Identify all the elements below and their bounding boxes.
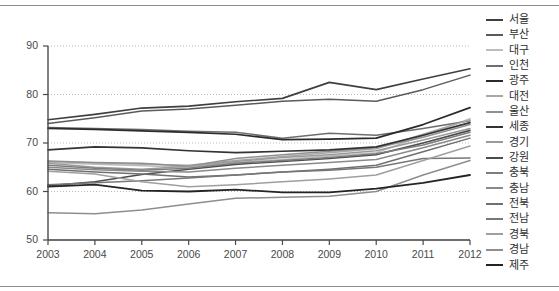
legend-label: 인천 [509, 58, 529, 73]
legend-item-10[interactable]: 충북 [486, 165, 558, 180]
legend-item-13[interactable]: 전남 [486, 211, 558, 226]
legend-swatch-line-icon [486, 187, 503, 189]
x-tick-label-2006: 2006 [166, 248, 212, 260]
legend-item-4[interactable]: 광주 [486, 73, 558, 88]
legend-label: 서울 [509, 12, 529, 27]
legend-item-6[interactable]: 울산 [486, 104, 558, 119]
x-tick-label-2009: 2009 [306, 248, 352, 260]
legend-label: 전북 [509, 196, 529, 211]
legend-item-7[interactable]: 세종 [486, 119, 558, 134]
x-tick-label-2004: 2004 [72, 248, 118, 260]
legend-swatch-line-icon [486, 80, 503, 82]
legend-swatch-line-icon [486, 141, 503, 143]
legend-label: 충남 [509, 181, 529, 196]
legend-item-12[interactable]: 전북 [486, 196, 558, 211]
legend-swatch-line-icon [486, 233, 503, 235]
legend-item-11[interactable]: 충남 [486, 181, 558, 196]
legend-item-5[interactable]: 대전 [486, 89, 558, 104]
legend-label: 경남 [509, 242, 529, 257]
y-tick-label-60: 60 [12, 185, 38, 197]
legend-item-0[interactable]: 서울 [486, 12, 558, 27]
y-tick-label-90: 90 [12, 39, 38, 51]
legend-item-8[interactable]: 경기 [486, 135, 558, 150]
legend-swatch-line-icon [486, 172, 503, 174]
top-divider [0, 5, 559, 6]
legend-swatch-line-icon [486, 218, 503, 220]
legend-label: 제주 [509, 258, 529, 273]
legend-swatch-line-icon [486, 111, 503, 113]
x-tick-label-2007: 2007 [213, 248, 259, 260]
legend-swatch-line-icon [486, 203, 503, 205]
y-tick-label-50: 50 [12, 233, 38, 245]
plot-area: 5060708090 20032004200520062007200820092… [0, 10, 480, 278]
y-tick-label-80: 80 [12, 88, 38, 100]
line-chart-svg [0, 10, 480, 278]
legend-swatch-line-icon [486, 264, 503, 266]
legend-label: 울산 [509, 104, 529, 119]
chart-figure: 5060708090 20032004200520062007200820092… [0, 0, 559, 291]
x-tick-label-2008: 2008 [259, 248, 305, 260]
legend-label: 광주 [509, 73, 529, 88]
legend-label: 전남 [509, 211, 529, 226]
legend-swatch-line-icon [486, 249, 503, 251]
legend-swatch-line-icon [486, 49, 503, 51]
legend-swatch-line-icon [486, 95, 503, 97]
legend-label: 대전 [509, 89, 529, 104]
legend-swatch-line-icon [486, 157, 503, 159]
legend-label: 세종 [509, 119, 529, 134]
bottom-divider [0, 286, 559, 287]
legend-label: 강원 [509, 150, 529, 165]
legend-label: 경북 [509, 227, 529, 242]
chart-legend: 서울부산대구인천광주대전울산세종경기강원충북충남전북전남경북경남제주 [486, 12, 558, 280]
legend-label: 충북 [509, 165, 529, 180]
legend-label: 부산 [509, 27, 529, 42]
legend-swatch-line-icon [486, 19, 503, 21]
legend-item-1[interactable]: 부산 [486, 27, 558, 42]
legend-swatch-line-icon [486, 34, 503, 36]
legend-swatch-line-icon [486, 65, 503, 67]
legend-swatch-line-icon [486, 126, 503, 128]
legend-item-15[interactable]: 경남 [486, 242, 558, 257]
x-tick-label-2010: 2010 [353, 248, 399, 260]
legend-label: 대구 [509, 43, 529, 58]
x-tick-label-2005: 2005 [119, 248, 165, 260]
legend-item-2[interactable]: 대구 [486, 43, 558, 58]
y-tick-label-70: 70 [12, 136, 38, 148]
legend-item-3[interactable]: 인천 [486, 58, 558, 73]
x-tick-label-2003: 2003 [25, 248, 71, 260]
legend-item-9[interactable]: 강원 [486, 150, 558, 165]
x-tick-label-2011: 2011 [400, 248, 446, 260]
legend-label: 경기 [509, 135, 529, 150]
legend-item-16[interactable]: 제주 [486, 258, 558, 273]
legend-item-14[interactable]: 경북 [486, 227, 558, 242]
